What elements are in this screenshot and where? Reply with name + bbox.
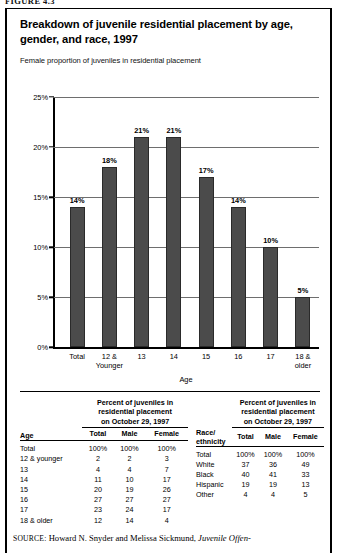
source-authors: Howard N. Snyder and Melissa Sickmund, [46, 533, 198, 543]
table-row: 16272727 [20, 495, 188, 505]
x-axis-tick-label: 15 [190, 352, 222, 361]
x-axis-tick-line: 16 [222, 352, 254, 361]
bar-value-label: 5% [287, 286, 319, 295]
x-axis-tick-line: Total [61, 352, 93, 361]
y-axis-tick-mark [49, 297, 54, 298]
bar-value-label: 18% [93, 156, 125, 165]
y-axis-tick-label: 15% [33, 193, 48, 202]
cell-male: 27 [114, 495, 146, 505]
race-span-line-2: residential placement [232, 407, 324, 416]
race-table: Percent of juveniles in residential plac… [196, 398, 324, 501]
x-axis-tick-label: 16 [222, 352, 254, 361]
cell-female: 26 [145, 485, 188, 495]
bar [295, 297, 310, 347]
x-axis-tick-label: 13 [126, 352, 158, 361]
y-axis-tick-mark [49, 96, 54, 97]
cell-male: 4 [114, 465, 146, 475]
race-table-row-header: Race/ ethnicity [196, 428, 232, 447]
cell-female: 17 [145, 505, 188, 515]
age-table-wrapper: Percent of juveniles in residential plac… [20, 398, 188, 526]
cell-male: 2 [114, 454, 146, 464]
cell-total: 4 [232, 490, 260, 500]
cell-male: 36 [259, 460, 287, 470]
cell-female: 4 [145, 516, 188, 526]
gridline [53, 147, 319, 148]
data-tables-region: Percent of juveniles in residential plac… [20, 398, 324, 526]
table-row: Total100%100%100% [20, 444, 188, 454]
x-axis-line [53, 347, 319, 349]
y-axis-tick-mark [49, 146, 54, 147]
bar [134, 137, 149, 347]
age-span-line-2: residential placement [82, 407, 188, 416]
cell-total: 37 [232, 460, 260, 470]
gridline [53, 97, 319, 98]
bar-value-label: 14% [61, 196, 93, 205]
cell-male: 100% [114, 444, 146, 454]
cell-total: 2 [82, 454, 114, 464]
race-col-male: Male [259, 428, 287, 447]
table-row: White373649 [196, 460, 324, 470]
cell-total: 11 [82, 475, 114, 485]
bar-value-label: 17% [190, 166, 222, 175]
age-col-male: Male [114, 428, 146, 441]
cell-female: 33 [287, 470, 324, 480]
bar-value-label: 14% [222, 196, 254, 205]
y-axis-tick-label: 10% [33, 243, 48, 252]
bar [231, 207, 246, 347]
cell-total: 100% [232, 450, 260, 460]
bar [199, 177, 214, 347]
table-row: 12 & younger223 [20, 454, 188, 464]
x-axis-tick-label: 18 &older [287, 352, 319, 371]
chart-subtitle: Female proportion of juveniles in reside… [20, 56, 320, 65]
x-axis-tick-line: 18 & [287, 352, 319, 361]
source-publication-title: Juvenile Offen- [198, 533, 251, 543]
cell-female: 17 [145, 475, 188, 485]
y-axis-tick-label: 20% [33, 143, 48, 152]
cell-label: White [196, 460, 232, 470]
table-row: Black404133 [196, 470, 324, 480]
cell-female: 100% [145, 444, 188, 454]
x-axis-tick-line: 13 [126, 352, 158, 361]
x-axis-tick-line: 17 [255, 352, 287, 361]
y-axis-tick-label: 5% [37, 293, 48, 302]
race-table-wrapper: Percent of juveniles in residential plac… [196, 398, 324, 526]
table-row: 17232417 [20, 505, 188, 515]
cell-female: 7 [145, 465, 188, 475]
bar-value-label: 10% [255, 236, 287, 245]
x-axis-tick-line: 14 [158, 352, 190, 361]
cell-label: 14 [20, 475, 82, 485]
cell-label: 15 [20, 485, 82, 495]
source-note: SOURCE: Howard N. Snyder and Melissa Sic… [13, 533, 323, 544]
table-row: 14111017 [20, 475, 188, 485]
table-row: 13447 [20, 465, 188, 475]
age-table: Percent of juveniles in residential plac… [20, 398, 188, 526]
x-axis-tick-label: 14 [158, 352, 190, 361]
x-axis-tick-line: Younger [93, 361, 125, 370]
y-axis-line [53, 97, 55, 349]
x-axis-tick-line: 15 [190, 352, 222, 361]
cell-female: 13 [287, 480, 324, 490]
table-row: 15201926 [20, 485, 188, 495]
bar-value-label: 21% [158, 126, 190, 135]
cell-total: 27 [82, 495, 114, 505]
chart-title: Breakdown of juvenile residential placem… [20, 17, 320, 47]
cell-male: 24 [114, 505, 146, 515]
cell-male: 100% [259, 450, 287, 460]
cell-total: 100% [82, 444, 114, 454]
age-col-female: Female [145, 428, 188, 441]
cell-male: 10 [114, 475, 146, 485]
cell-label: 13 [20, 465, 82, 475]
y-axis-tick-mark [49, 196, 54, 197]
bar-value-label: 21% [126, 126, 158, 135]
x-axis-tick-line: older [287, 361, 319, 370]
table-row: 18 & older12144 [20, 516, 188, 526]
cell-female: 49 [287, 460, 324, 470]
cell-female: 3 [145, 454, 188, 464]
y-axis-tick-mark [49, 247, 54, 248]
x-axis-tick-label: Total [61, 352, 93, 361]
age-col-total: Total [82, 428, 114, 441]
age-table-row-header: Age [20, 428, 82, 441]
cell-label: 12 & younger [20, 454, 82, 464]
cell-label: 17 [20, 505, 82, 515]
cell-label: Hispanic [196, 480, 232, 490]
